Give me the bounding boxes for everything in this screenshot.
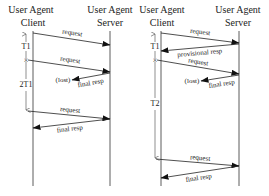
message-label-final-resp-lost: final resp bbox=[208, 78, 236, 90]
timer-2t1-label: 2T1 bbox=[20, 80, 33, 89]
server-title-line1: User Agent bbox=[215, 4, 260, 15]
message-label-request-1: request bbox=[62, 28, 83, 39]
client-title-line2: Client bbox=[150, 17, 175, 28]
lost-label: (lost) bbox=[185, 77, 200, 85]
client-title-line2: Client bbox=[21, 17, 46, 28]
server-title-line2: Server bbox=[225, 17, 252, 28]
message-label-request-3: request bbox=[60, 105, 81, 115]
message-label-request-2: request bbox=[60, 55, 81, 66]
timer-t1-label: T1 bbox=[22, 42, 31, 51]
message-label-final-resp: final resp bbox=[56, 123, 83, 134]
message-label-request-1: request bbox=[190, 27, 211, 38]
lost-label: (lost) bbox=[56, 76, 71, 84]
sip-timer-diagrams: User Agent Client User Agent Server T1 ×… bbox=[0, 0, 269, 196]
timer-t2-label: T2 bbox=[151, 99, 160, 108]
message-label-request-3: request bbox=[190, 153, 211, 163]
client-title-line1: User Agent bbox=[8, 4, 53, 15]
client-title-line1: User Agent bbox=[139, 4, 184, 15]
right-diagram: User Agent Client User Agent Server T1 ×… bbox=[139, 4, 260, 186]
timer-t1-label: T1 bbox=[151, 42, 160, 51]
left-diagram: User Agent Client User Agent Server T1 ×… bbox=[8, 4, 132, 186]
server-title-line2: Server bbox=[97, 17, 124, 28]
server-title-line1: User Agent bbox=[87, 4, 132, 15]
